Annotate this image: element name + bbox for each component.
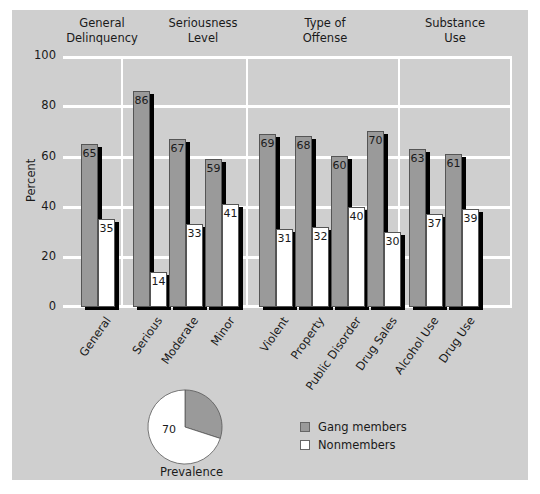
bar-value-label: 67 (170, 142, 185, 155)
group-title-line: Type of (270, 16, 380, 31)
bar-value-label: 40 (349, 210, 364, 223)
group-title-substance-use: Substance Use (400, 16, 510, 46)
group-title-line: Delinquency (62, 31, 142, 46)
bar-value-label: 63 (410, 152, 425, 165)
bar-gang-members-property: 68 (295, 136, 312, 307)
bar-value-label: 41 (223, 207, 238, 220)
bar-nonmembers-general: 35 (98, 219, 115, 307)
bar-value-label: 37 (427, 217, 442, 230)
bar-value-label: 31 (277, 232, 292, 245)
bar-nonmembers-property: 32 (312, 227, 329, 307)
y-tick-80: 80 (26, 98, 56, 112)
bar-gang-members-violent: 69 (259, 134, 276, 307)
prevalence-pie-chart (146, 388, 224, 466)
bar-value-label: 14 (151, 275, 166, 288)
group-title-line: Substance (400, 16, 510, 31)
bar-value-label: 60 (332, 159, 347, 172)
group-title-line: Level (148, 31, 258, 46)
bar-nonmembers-drug-sales: 30 (384, 232, 401, 307)
bar-nonmembers-alcohol-use: 37 (426, 214, 443, 307)
bar-value-label: 70 (368, 134, 383, 147)
legend-label: Gang members (318, 420, 407, 434)
group-title-line: Seriousness (148, 16, 258, 31)
bar-nonmembers-drug-use: 39 (462, 209, 479, 307)
bar-gang-members-alcohol-use: 63 (409, 149, 426, 307)
bar-value-label: 61 (446, 157, 461, 170)
group-title-general-delinquency: General Delinquency (62, 16, 142, 46)
bar-nonmembers-minor: 41 (222, 204, 239, 307)
pie-slice-label-nonmembers: 70 (162, 423, 176, 436)
y-tick-0: 0 (26, 299, 56, 313)
bar-value-label: 68 (296, 139, 311, 152)
legend-swatch-gray-icon (300, 422, 310, 432)
y-tick-100: 100 (26, 48, 56, 62)
group-title-line: Use (400, 31, 510, 46)
pie-caption: Prevalence (160, 465, 223, 479)
bar-value-label: 65 (82, 147, 97, 160)
y-tick-60: 60 (26, 149, 56, 163)
bar-gang-members-drug-use: 61 (445, 154, 462, 307)
group-title-type-of-offense: Type of Offense (270, 16, 380, 46)
group-title-line: General (62, 16, 142, 31)
legend-label: Nonmembers (318, 438, 396, 452)
plot-area: 6535861467335941693168326040703063376139 (63, 56, 512, 308)
bar-nonmembers-violent: 31 (276, 229, 293, 307)
bar-gang-members-drug-sales: 70 (367, 131, 384, 307)
bar-value-label: 59 (206, 162, 221, 175)
group-title-seriousness-level: Seriousness Level (148, 16, 258, 46)
bar-value-label: 30 (385, 235, 400, 248)
y-axis-label: Percent (24, 159, 38, 202)
bar-gang-members-general: 65 (81, 144, 98, 307)
legend-swatch-white-icon (300, 440, 310, 450)
bar-value-label: 35 (99, 222, 114, 235)
bar-value-label: 86 (134, 94, 149, 107)
bar-gang-members-serious: 86 (133, 91, 150, 307)
bar-value-label: 39 (463, 212, 478, 225)
bar-nonmembers-moderate: 33 (186, 224, 203, 307)
bar-nonmembers-serious: 14 (150, 272, 167, 307)
bar-value-label: 69 (260, 137, 275, 150)
bar-container: 6535861467335941693168326040703063376139 (63, 56, 512, 307)
bar-gang-members-moderate: 67 (169, 139, 186, 307)
bar-value-label: 32 (313, 230, 328, 243)
y-tick-20: 20 (26, 249, 56, 263)
y-tick-40: 40 (26, 199, 56, 213)
bar-gang-members-public-disorder: 60 (331, 156, 348, 307)
group-title-line: Offense (270, 31, 380, 46)
bar-gang-members-minor: 59 (205, 159, 222, 307)
bar-value-label: 33 (187, 227, 202, 240)
bar-nonmembers-public-disorder: 40 (348, 207, 365, 307)
